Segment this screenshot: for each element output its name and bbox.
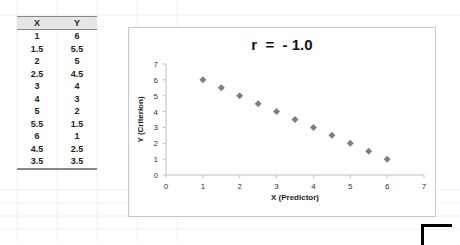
cell-x: 4 — [17, 93, 57, 106]
y-tick-label: 5 — [154, 92, 159, 101]
scatter-chart[interactable]: r = - 1.0 0123456701234567X (Predictor)Y… — [128, 27, 436, 217]
table-header-row: X Y — [17, 17, 97, 30]
selection-corner-marker — [421, 224, 452, 245]
cell-x: 3 — [17, 80, 57, 93]
x-tick-label: 1 — [201, 182, 206, 191]
cell-y: 4.5 — [57, 68, 97, 81]
data-point-diamond — [328, 132, 335, 139]
column-header-y: Y — [57, 17, 97, 30]
data-point-diamond — [199, 76, 206, 83]
data-point-diamond — [236, 92, 243, 99]
cell-y: 2 — [57, 105, 97, 118]
y-tick-label: 6 — [154, 76, 159, 85]
data-point-diamond — [218, 84, 225, 91]
cell-y: 1 — [57, 130, 97, 143]
cell-x: 2 — [17, 55, 57, 68]
x-tick-label: 2 — [237, 182, 242, 191]
table-row: 5.51.5 — [17, 118, 97, 131]
x-tick-label: 0 — [164, 182, 169, 191]
table-row: 52 — [17, 105, 97, 118]
table-row: 25 — [17, 55, 97, 68]
cell-x: 2.5 — [17, 68, 57, 81]
cell-y: 6 — [57, 30, 97, 43]
table-row: 4.52.5 — [17, 143, 97, 156]
y-tick-label: 4 — [154, 108, 159, 117]
cell-y: 3 — [57, 93, 97, 106]
cell-y: 1.5 — [57, 118, 97, 131]
cell-x: 3.5 — [17, 155, 57, 169]
data-point-diamond — [292, 116, 299, 123]
x-tick-label: 5 — [348, 182, 353, 191]
x-axis-title: X (Predictor) — [271, 193, 319, 202]
table-row: 43 — [17, 93, 97, 106]
data-table: X Y 161.55.5252.54.53443525.51.5614.52.5… — [17, 16, 97, 170]
x-tick-label: 4 — [311, 182, 316, 191]
y-axis-title: Y (Criterion) — [136, 96, 145, 142]
data-point-diamond — [255, 100, 262, 107]
table-row: 61 — [17, 130, 97, 143]
data-point-diamond — [384, 156, 391, 163]
x-tick-label: 3 — [274, 182, 279, 191]
x-tick-label: 6 — [385, 182, 390, 191]
y-tick-label: 0 — [154, 171, 159, 180]
plot-area: 0123456701234567X (Predictor)Y (Criterio… — [129, 28, 435, 216]
data-point-diamond — [347, 140, 354, 147]
cell-x: 1.5 — [17, 43, 57, 56]
data-point-diamond — [365, 148, 372, 155]
y-tick-label: 3 — [154, 123, 159, 132]
table-row: 16 — [17, 30, 97, 43]
cell-y: 2.5 — [57, 143, 97, 156]
data-point-diamond — [273, 108, 280, 115]
x-tick-label: 7 — [422, 182, 427, 191]
cell-x: 5.5 — [17, 118, 57, 131]
cell-x: 6 — [17, 130, 57, 143]
table-row: 2.54.5 — [17, 68, 97, 81]
table-row: 1.55.5 — [17, 43, 97, 56]
table-row: 34 — [17, 80, 97, 93]
cell-x: 1 — [17, 30, 57, 43]
column-header-x: X — [17, 17, 57, 30]
cell-x: 4.5 — [17, 143, 57, 156]
data-point-diamond — [310, 124, 317, 131]
cell-y: 5.5 — [57, 43, 97, 56]
cell-y: 4 — [57, 80, 97, 93]
cell-y: 3.5 — [57, 155, 97, 169]
y-tick-label: 7 — [154, 60, 159, 69]
y-tick-label: 1 — [154, 155, 159, 164]
cell-x: 5 — [17, 105, 57, 118]
y-tick-label: 2 — [154, 139, 159, 148]
table-row: 3.53.5 — [17, 155, 97, 169]
cell-y: 5 — [57, 55, 97, 68]
